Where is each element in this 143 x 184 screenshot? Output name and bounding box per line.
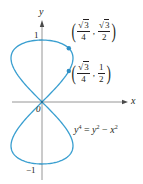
- fraction-y: 1 2: [98, 63, 105, 84]
- fraction-x: √3 4: [77, 63, 89, 84]
- radicand: 3: [83, 61, 89, 72]
- denominator: 2: [102, 32, 107, 42]
- radicand: 3: [83, 19, 89, 30]
- equation-label: y4 = y2 − x2: [74, 124, 118, 135]
- origin-label: 0: [36, 105, 41, 114]
- y-axis-arrow-icon: [40, 20, 44, 27]
- point-sqrt3-4-sqrt3-2: [67, 46, 71, 50]
- eq-exp2b: 2: [115, 124, 118, 130]
- right-paren: ): [112, 20, 116, 42]
- comma: ,: [93, 27, 95, 36]
- y-tick-label-1: 1: [34, 31, 39, 40]
- denominator: 4: [81, 74, 86, 84]
- numerator: 1: [98, 63, 105, 74]
- denominator: 4: [81, 32, 86, 42]
- comma: ,: [93, 69, 95, 78]
- point-label-lower: ( √3 4 , 1 2 ): [70, 62, 112, 84]
- fraction-y: √3 2: [98, 21, 110, 42]
- denominator: 2: [99, 74, 104, 84]
- radicand: 3: [104, 19, 110, 30]
- y-axis-label: y: [39, 7, 43, 17]
- right-paren: ): [106, 62, 110, 84]
- x-axis-label: x: [131, 96, 135, 106]
- eq-equals: =: [81, 124, 92, 135]
- left-paren: (: [71, 20, 75, 42]
- left-paren: (: [71, 62, 75, 84]
- eq-minus: −: [100, 124, 111, 135]
- y-tick-label-neg1: −1: [26, 166, 36, 175]
- x-axis-arrow-icon: [122, 100, 128, 104]
- origin-dot: [41, 101, 43, 103]
- fraction-x: √3 4: [77, 21, 89, 42]
- point-label-upper: ( √3 4 , √3 2 ): [70, 20, 118, 42]
